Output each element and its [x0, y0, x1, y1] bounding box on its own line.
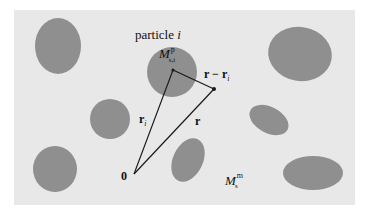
origin-label: 0 — [121, 169, 127, 183]
particle — [35, 18, 81, 74]
particle-i-label: particle i — [135, 27, 181, 42]
field-point — [212, 87, 216, 91]
particle — [283, 156, 343, 190]
particle-matrix-diagram: particle i Mps,i r − ri ri r 0 Mms — [0, 0, 368, 217]
vector-r-minus-ri-label: r − ri — [204, 67, 230, 83]
particle-center-point — [171, 68, 174, 71]
particle — [90, 99, 130, 139]
vector-r-label: r — [195, 114, 201, 128]
particle — [33, 146, 77, 192]
